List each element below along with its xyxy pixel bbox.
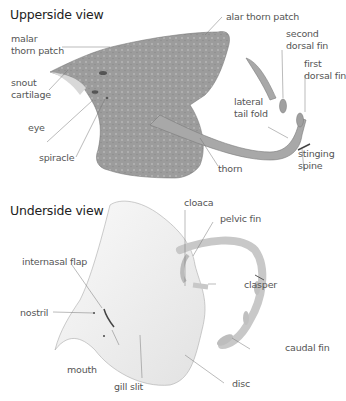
label-mouth: mouth bbox=[67, 364, 97, 376]
label-clasper: clasper bbox=[244, 279, 277, 291]
label-disc: disc bbox=[232, 378, 250, 390]
label-caudal-fin: caudal fin bbox=[285, 342, 330, 354]
label-internasal-flap: internasal flap bbox=[22, 256, 87, 268]
label-lateral-tail-fold: lateral tail fold bbox=[234, 96, 268, 119]
underside-ray bbox=[55, 201, 264, 385]
label-gill-slit: gill slit bbox=[114, 381, 143, 393]
upperside-title: Upperside view bbox=[10, 7, 103, 22]
upperside-ray bbox=[50, 32, 310, 178]
label-alar-thorn-patch: alar thorn patch bbox=[226, 11, 299, 23]
label-eye: eye bbox=[28, 122, 45, 134]
label-spiracle: spiracle bbox=[39, 152, 74, 164]
underside-title: Underside view bbox=[10, 203, 103, 218]
label-first-dorsal-fin: first dorsal fin bbox=[304, 58, 346, 81]
label-thorn: thorn bbox=[218, 163, 242, 175]
label-snout-cartilage: snout cartilage bbox=[11, 77, 51, 100]
label-nostril: nostril bbox=[20, 307, 48, 319]
label-malar-thorn-patch: malar thorn patch bbox=[11, 33, 64, 56]
label-cloaca: cloaca bbox=[184, 197, 213, 209]
label-stinging-spine: stinging spine bbox=[298, 148, 334, 171]
label-pelvic-fin: pelvic fin bbox=[220, 213, 261, 225]
label-second-dorsal-fin: second dorsal fin bbox=[286, 28, 328, 51]
